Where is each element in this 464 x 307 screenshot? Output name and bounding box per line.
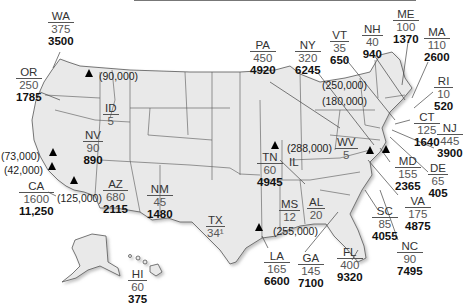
state-label-nh: NH40940	[362, 23, 383, 60]
alaska-shape	[62, 234, 120, 282]
state-value-1: 10	[434, 88, 453, 100]
state-value-1: 175	[405, 208, 431, 220]
state-value-2: 2600	[424, 51, 450, 63]
state-label-ri: RI10520	[434, 75, 453, 112]
state-value-2: 3500	[48, 35, 74, 47]
state-abbr: TX	[206, 214, 225, 227]
state-value-1: 34¹	[206, 227, 225, 239]
state-abbr: MD	[395, 155, 421, 168]
state-abbr: LA	[264, 250, 290, 263]
state-value-1: 35	[330, 42, 349, 54]
state-label-pa: PA4504920	[250, 39, 276, 76]
state-abbr: CA	[19, 180, 54, 193]
state-value-1: 450	[250, 52, 276, 64]
state-abbr: NJ	[437, 122, 463, 135]
state-value-1: 445	[437, 135, 463, 147]
state-value-1: 400	[337, 259, 363, 271]
state-abbr: RI	[434, 75, 453, 88]
state-label-ny: NY3206245	[295, 39, 321, 76]
state-value-2: 375	[128, 293, 147, 305]
marker-value: (125,000)	[57, 192, 102, 204]
state-value-1: 155	[395, 168, 421, 180]
state-abbr: MA	[424, 26, 450, 39]
state-value-2: 4945	[257, 176, 283, 188]
state-label-sc: SC854055	[372, 205, 398, 242]
triangle-marker-icon	[366, 146, 374, 154]
state-abbr: OR	[16, 66, 42, 79]
state-value-2: 4875	[405, 220, 431, 232]
state-value-1: 40	[362, 36, 383, 48]
state-abbr: HI	[128, 268, 147, 281]
state-value-2: 6600	[264, 275, 290, 287]
state-abbr: FL	[337, 246, 363, 259]
state-value-1: 5	[335, 149, 358, 161]
state-label-md: MD1552365	[395, 155, 421, 192]
state-abbr: CT	[414, 111, 440, 124]
state-value-2: 11,250	[19, 205, 54, 217]
state-label-nm: NM451480	[147, 183, 173, 220]
state-value-2: 3900	[437, 147, 463, 159]
state-label-or: OR2501785	[16, 66, 42, 103]
state-label-ma: MA1102600	[424, 26, 450, 63]
marker-value: (180,000)	[322, 95, 367, 107]
state-label-al: AL20	[307, 196, 325, 221]
triangle-marker-icon	[382, 145, 390, 153]
state-value-2: 9320	[337, 271, 363, 283]
triangle-marker-icon	[271, 141, 279, 149]
state-value-2: 6245	[295, 64, 321, 76]
state-abbr: PA	[250, 39, 276, 52]
state-label-vt: VT35650	[330, 29, 349, 66]
state-value-1: 12	[279, 211, 300, 223]
state-abbr: ME	[393, 8, 419, 21]
marker-value: (255,000)	[273, 225, 318, 237]
state-abbr: GA	[298, 252, 324, 265]
state-value-1: 60	[257, 164, 283, 176]
state-value-1: 680	[103, 191, 128, 203]
state-value-2: 1480	[147, 208, 173, 220]
state-label-hi: HI60375	[128, 268, 147, 305]
state-value-2: 4920	[250, 64, 276, 76]
marker-value: (42,000)	[4, 164, 43, 176]
state-abbr: AL	[307, 196, 325, 209]
state-abbr: NC	[397, 240, 423, 253]
state-value-1: 110	[424, 39, 450, 51]
state-value-2: 940	[362, 48, 383, 60]
state-label-nj: NJ4453900	[437, 122, 463, 159]
state-label-ga: GA1457100	[298, 252, 324, 289]
state-value-1: 320	[295, 52, 321, 64]
state-value-2: 7495	[397, 265, 423, 277]
triangle-marker-icon	[85, 69, 93, 77]
state-value-1: 125	[414, 124, 440, 136]
state-label-ct: CT1251640	[414, 111, 440, 148]
state-value-2: 4055	[372, 230, 398, 242]
state-label-ca: CA160011,250	[19, 180, 54, 217]
state-value-2: 7100	[298, 277, 324, 289]
state-value-1: 85	[372, 218, 398, 230]
marker-value: (250,000)	[322, 79, 367, 91]
state-label-id: ID5	[103, 102, 119, 127]
state-abbr: NM	[147, 183, 173, 196]
triangle-marker-icon	[70, 176, 78, 184]
state-label-ms: MS12	[279, 198, 300, 223]
state-value-2: 890	[83, 154, 103, 166]
state-value-1: 45	[147, 196, 173, 208]
state-value-1: 250	[16, 79, 42, 91]
state-abbr: AZ	[103, 178, 128, 191]
state-abbr: SC	[372, 205, 398, 218]
state-value-2: 1785	[16, 91, 42, 103]
state-abbr: NH	[362, 23, 383, 36]
state-value-1: 100	[393, 21, 419, 33]
state-label-tn: TN604945	[257, 151, 283, 188]
state-value-2: 2365	[395, 180, 421, 192]
state-value-1: 60	[128, 281, 147, 293]
marker-value: (73,000)	[1, 150, 40, 162]
state-abbr: ID	[103, 102, 119, 115]
state-abbr: DE	[428, 162, 448, 175]
state-value-1: 90	[83, 142, 103, 154]
state-value-1: 375	[48, 23, 74, 35]
state-label-il: IL	[287, 156, 301, 168]
state-abbr: WV	[335, 136, 358, 149]
triangle-marker-icon	[48, 162, 56, 170]
state-label-nc: NC907495	[397, 240, 423, 277]
state-value-2: 650	[330, 54, 349, 66]
